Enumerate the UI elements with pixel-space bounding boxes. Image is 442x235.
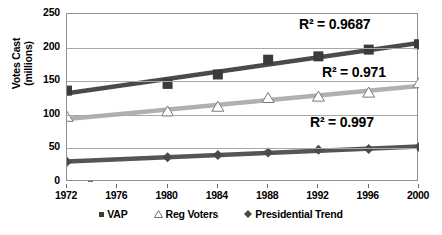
x-tick-label: 1976 [96,189,136,201]
y-tick-label: 100 [28,107,60,119]
data-point-square [364,45,374,55]
x-axis-ticks: 19721976198019841988199219962000 [66,184,418,202]
data-layer [67,14,419,182]
y-axis-title-line-1: Votes Cast [11,9,23,119]
r2-annotation-reg-voters: R² = 0.971 [322,64,386,80]
x-tick-label: 1972 [46,189,86,201]
gridline [67,48,417,49]
x-tick-mark [167,184,168,188]
data-point-diamond [163,152,173,162]
x-tick-mark [116,184,117,188]
gridline [67,81,417,82]
legend-item-reg-voters[interactable]: Reg Voters [154,208,219,220]
y-tick-label: 0 [28,174,60,186]
chart-container: Votes Cast (millions) 050100150200250 19… [0,0,442,235]
data-point-diamond [414,142,419,152]
y-axis-ticks: 050100150200250 [28,13,60,181]
y-tick-label: 200 [28,40,60,52]
legend-label: VAP [107,208,127,220]
data-point-diamond [67,157,72,167]
x-tick-label: 1984 [197,189,237,201]
legend-item-vap[interactable]: VAP [99,208,127,220]
plot-area [66,13,418,181]
data-point-triangle [413,78,419,88]
gridline [67,148,417,149]
r2-annotation-vap: R² = 0.9687 [299,16,370,32]
x-tick-label: 1996 [348,189,388,201]
x-tick-label: 2000 [398,189,438,201]
x-tick-mark [267,184,268,188]
data-point-square [67,86,72,96]
data-point-diamond [213,150,223,160]
chart-legend: VAPReg VotersPresidential Trend [0,208,442,220]
x-tick-mark [217,184,218,188]
legend-label: Presidential Trend [255,208,342,220]
x-tick-label: 1988 [247,189,287,201]
x-tick-mark [418,184,419,188]
open-triangle-marker-icon [154,210,163,218]
series-presidential-trend [67,142,419,167]
x-tick-mark [317,184,318,188]
y-tick-label: 150 [28,73,60,85]
legend-label: Reg Voters [166,208,219,220]
data-point-square [263,55,273,65]
x-tick-label: 1992 [297,189,337,201]
data-point-square [213,69,223,79]
y-tick-label: 50 [28,140,60,152]
x-tick-mark [66,184,67,188]
filled-diamond-marker-icon [244,210,252,218]
x-tick-mark [368,184,369,188]
data-point-square [313,51,323,61]
r2-annotation-presidential-trend: R² = 0.997 [310,114,374,130]
x-tick-label: 1980 [147,189,187,201]
filled-square-marker-icon [99,212,104,217]
data-point-diamond [313,145,323,155]
y-tick-label: 250 [28,6,60,18]
legend-item-presidential-trend[interactable]: Presidential Trend [244,208,342,220]
